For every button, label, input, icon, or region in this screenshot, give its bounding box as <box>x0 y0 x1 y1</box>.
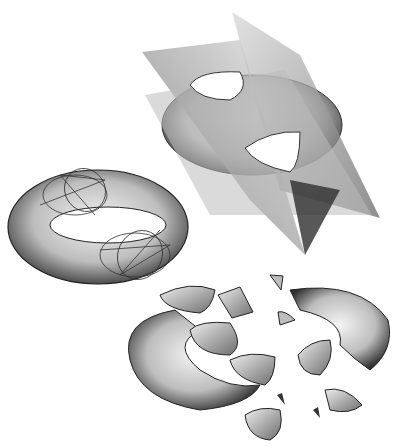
exploded-torus-pieces <box>128 275 389 440</box>
torus-illustration <box>0 0 399 448</box>
figure-canvas <box>0 0 399 448</box>
torus-with-cut-curves <box>8 161 188 287</box>
